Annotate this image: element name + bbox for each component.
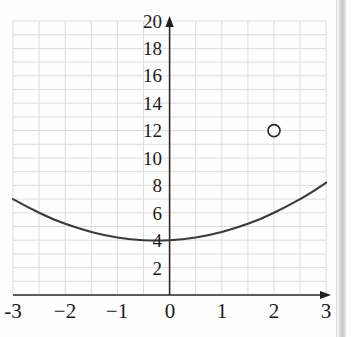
x-tick-label-minus-2: −2 [49, 301, 81, 322]
x-tick-label-minus-3: -3 [0, 301, 29, 322]
x-tick-label-minus-1: −1 [101, 301, 133, 322]
y-tick-label-6: 6 [114, 204, 162, 223]
open-point-marker [268, 125, 280, 137]
graph-figure: 20 18 16 14 12 10 8 6 4 2 -3 −2 −1 0 1 2… [0, 0, 351, 337]
y-tick-label-12: 12 [114, 121, 162, 140]
y-tick-label-16: 16 [114, 66, 162, 85]
y-axis [165, 16, 173, 295]
y-tick-label-4: 4 [114, 231, 162, 250]
y-tick-label-14: 14 [114, 94, 162, 113]
coordinate-plane [0, 0, 351, 337]
x-axis [13, 291, 331, 299]
page-edge-shadow [337, 0, 346, 337]
x-tick-label-1: 1 [206, 301, 238, 322]
y-tick-label-20: 20 [114, 12, 162, 31]
y-tick-label-10: 10 [114, 149, 162, 168]
y-tick-label-18: 18 [114, 39, 162, 58]
x-tick-label-2: 2 [258, 301, 290, 322]
y-tick-label-8: 8 [114, 176, 162, 195]
x-tick-label-0: 0 [154, 301, 186, 322]
x-axis-arrow-icon [320, 291, 331, 299]
y-tick-label-2: 2 [114, 259, 162, 278]
